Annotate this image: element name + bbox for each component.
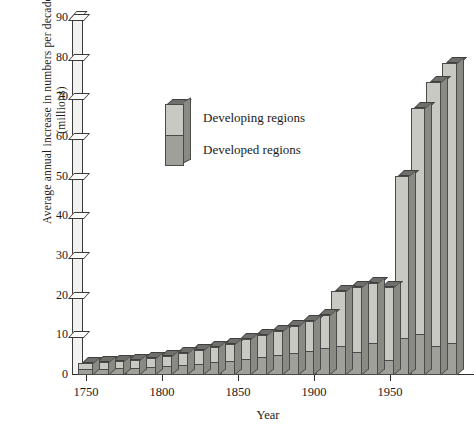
x-tick-label: 1750	[56, 385, 116, 400]
y-tick-label: 0	[34, 367, 68, 382]
plot-area: 0102030405060708090 17501800185019001950…	[78, 18, 458, 375]
legend-swatch-3d	[165, 104, 184, 166]
x-tick-label: 1800	[132, 385, 192, 400]
legend-swatch-developed	[166, 136, 183, 166]
bar-segment-developed	[79, 370, 92, 374]
y-tick-label: 20	[34, 288, 68, 303]
bar-side-face	[267, 329, 274, 375]
bar-side-face	[235, 338, 242, 375]
bar-side-face	[314, 315, 321, 375]
legend-label-developed: Developed regions	[203, 142, 301, 158]
legend-label-developing: Developing regions	[203, 110, 305, 126]
bar-side-face	[283, 325, 290, 375]
y-tick-label: 90	[34, 10, 68, 25]
bar-series-group	[78, 18, 458, 375]
y-tick-label: 10	[34, 327, 68, 342]
x-tick-mark	[162, 375, 163, 381]
x-tick-mark	[390, 375, 391, 381]
bar-side-face	[299, 320, 306, 375]
y-tick-label: 60	[34, 129, 68, 144]
bar-side-face	[425, 102, 432, 375]
bar-side-face	[394, 281, 401, 375]
bar-side-face	[441, 76, 448, 375]
legend-swatch-developing	[166, 105, 183, 136]
bar-side-face	[346, 285, 353, 375]
bar-side-face	[362, 281, 369, 375]
bar-side-face	[457, 57, 464, 375]
bar-column	[78, 363, 93, 375]
x-tick-label: 1950	[360, 385, 420, 400]
bar-side-face	[251, 333, 258, 375]
legend-swatch-front-face	[165, 104, 184, 166]
x-tick-label: 1850	[208, 385, 268, 400]
legend-swatch-side-face	[184, 98, 191, 163]
x-tick-mark	[314, 375, 315, 381]
x-tick-label: 1900	[284, 385, 344, 400]
bar-side-face	[378, 277, 385, 375]
bar-front-face	[78, 363, 93, 375]
bar-side-face	[409, 170, 416, 375]
y-tick-label: 50	[34, 169, 68, 184]
x-axis-title: Year	[78, 408, 458, 423]
y-tick-label: 30	[34, 248, 68, 263]
x-tick-mark	[86, 375, 87, 381]
bar-side-face	[330, 309, 337, 375]
y-tick-label: 70	[34, 89, 68, 104]
x-tick-mark	[238, 375, 239, 381]
y-tick-label: 80	[34, 50, 68, 65]
y-tick-label: 40	[34, 208, 68, 223]
y-axis-title-line1: Average annual increase in numbers per d…	[41, 0, 53, 224]
